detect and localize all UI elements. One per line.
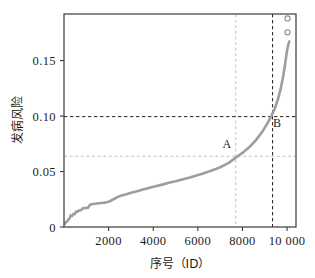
x-tick-label: 4000 [140, 234, 167, 248]
point-b-label: B [273, 116, 281, 130]
chart-container: 00.050.100.15 200040006000800010 000 AB … [0, 0, 315, 278]
y-tick-label: 0.10 [33, 110, 56, 124]
y-axis-ticks: 00.050.100.15 [33, 54, 64, 234]
plot-area-background [64, 14, 296, 227]
x-tick-label: 8000 [229, 234, 256, 248]
incidence-risk-line-chart: 00.050.100.15 200040006000800010 000 AB … [0, 0, 315, 278]
x-tick-label: 10 000 [269, 234, 306, 248]
y-tick-label: 0.05 [33, 165, 56, 179]
y-axis-title: 发病风险 [10, 96, 25, 144]
y-tick-label: 0.15 [33, 54, 56, 68]
x-tick-label: 6000 [185, 234, 212, 248]
x-axis-title: 序号（ID） [150, 256, 211, 271]
point-a-label: A [223, 137, 232, 151]
y-tick-label: 0 [49, 221, 56, 235]
x-axis-ticks: 200040006000800010 000 [95, 227, 305, 248]
x-tick-label: 2000 [95, 234, 122, 248]
